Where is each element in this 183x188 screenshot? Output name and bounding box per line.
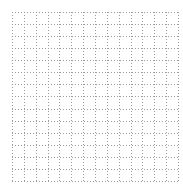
graph-paper-canvas — [0, 0, 183, 188]
dotted-grid — [0, 0, 183, 188]
